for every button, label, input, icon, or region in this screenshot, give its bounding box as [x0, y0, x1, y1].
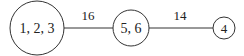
edge-weight-label: 16	[82, 8, 96, 23]
node-label: 5, 6	[121, 21, 142, 36]
node-label: 1, 2, 3	[20, 21, 55, 36]
edge-1-2-3-to-5-6: 16	[64, 8, 113, 28]
node-label: 4	[221, 21, 228, 36]
node-1-2-3: 1, 2, 3	[10, 1, 64, 55]
node-5-6: 5, 6	[113, 10, 149, 46]
node-4: 4	[213, 17, 235, 39]
tree-diagram: 16 14 1, 2, 3 5, 6 4	[0, 0, 244, 56]
edge-weight-label: 14	[174, 8, 188, 23]
edge-5-6-to-4: 14	[149, 8, 213, 28]
